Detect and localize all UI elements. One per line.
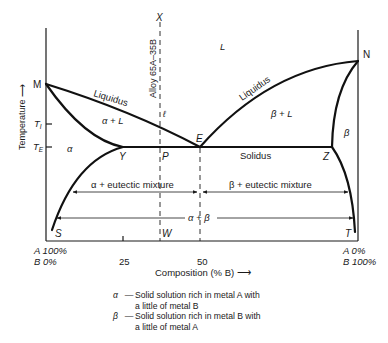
y-axis-label: Temperature ⟶ bbox=[17, 84, 27, 150]
label-N: N bbox=[363, 49, 370, 60]
alloy-label: Alloy 65A–35B bbox=[148, 39, 158, 98]
liquidus-right-curve bbox=[200, 61, 358, 147]
x-left-A: A 100% bbox=[33, 245, 67, 256]
legend-alpha-symbol: α bbox=[113, 290, 123, 311]
region-beta-L: β + L bbox=[270, 108, 293, 119]
legend-alpha: α — Solid solution rich in metal A with … bbox=[113, 290, 305, 311]
y-tick-TE: TE bbox=[33, 141, 44, 153]
legend-alpha-line1: Solid solution rich in metal A with bbox=[135, 290, 260, 300]
label-M: M bbox=[33, 79, 41, 90]
phase-diagram: M N E Y P Z S T W X ℓ L α + L β + L α β … bbox=[0, 0, 388, 290]
legend: α — Solid solution rich in metal A with … bbox=[113, 290, 305, 332]
region-beta: β bbox=[343, 127, 350, 138]
alpha-eutectic-label: α + eutectic mixture bbox=[91, 179, 174, 190]
label-Y: Y bbox=[119, 151, 127, 162]
x-right-B: B 100% bbox=[343, 256, 377, 267]
label-l: ℓ bbox=[162, 109, 166, 119]
label-S: S bbox=[55, 228, 62, 239]
legend-dash: — bbox=[123, 290, 135, 311]
label-X: X bbox=[155, 12, 163, 23]
legend-beta-line1: Solid solution rich in metal B with bbox=[135, 311, 261, 321]
beta-eutectic-label: β + eutectic mixture bbox=[229, 179, 312, 190]
legend-beta-line2: a little of metal A bbox=[135, 322, 198, 332]
label-T: T bbox=[345, 228, 352, 239]
legend-beta-symbol: β bbox=[113, 311, 123, 332]
region-L: L bbox=[220, 41, 225, 52]
y-tick-TI: TI bbox=[34, 118, 42, 130]
x-axis-label: Composition (% B) ⟶ bbox=[155, 267, 251, 278]
x-left-B: B 0% bbox=[34, 256, 57, 267]
solvus-beta-curve bbox=[332, 147, 355, 232]
region-alpha: α bbox=[67, 143, 73, 154]
x-right-A: A 0% bbox=[342, 245, 366, 256]
legend-alpha-line2: a little of metal B bbox=[135, 301, 199, 311]
legend-beta: β — Solid solution rich in metal B with … bbox=[113, 311, 305, 332]
x-tick-50: 50 bbox=[197, 256, 208, 267]
label-Z: Z bbox=[322, 151, 330, 162]
label-E: E bbox=[196, 133, 203, 144]
alpha-beta-label: α + β bbox=[188, 212, 210, 223]
label-P: P bbox=[162, 151, 169, 162]
x-tick-25: 25 bbox=[119, 256, 130, 267]
legend-beta-text: Solid solution rich in metal B with a li… bbox=[135, 311, 305, 332]
region-alpha-L: α + L bbox=[102, 115, 124, 126]
solidus-label: Solidus bbox=[240, 150, 271, 161]
legend-alpha-text: Solid solution rich in metal A with a li… bbox=[135, 290, 305, 311]
label-W: W bbox=[162, 228, 173, 239]
liquidus-left-label: Liquidus bbox=[92, 87, 129, 108]
legend-dash: — bbox=[123, 311, 135, 332]
